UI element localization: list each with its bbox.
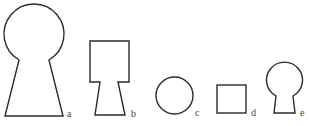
square-shape-d: [217, 85, 246, 113]
circle-shape-c: [156, 77, 193, 114]
shape-e: e: [266, 62, 305, 118]
shape-b: b: [90, 41, 136, 119]
shape-a: a: [4, 4, 72, 119]
label-e: e: [300, 107, 305, 118]
label-d: d: [251, 107, 256, 118]
keyhole-shape-a: [4, 4, 64, 116]
shapes-diagram: a b c d e: [0, 0, 309, 126]
shape-d: d: [217, 85, 256, 118]
label-a: a: [67, 108, 72, 119]
label-c: c: [195, 107, 200, 118]
keyhole-shape-e: [266, 62, 302, 113]
label-b: b: [131, 108, 136, 119]
square-trapezoid-shape-b: [90, 41, 129, 115]
shape-c: c: [156, 77, 200, 118]
